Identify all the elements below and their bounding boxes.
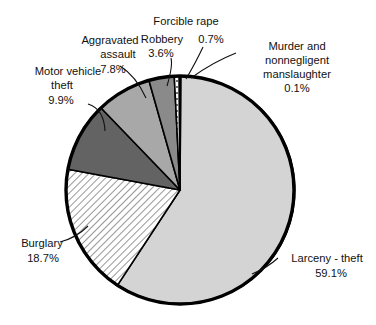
label-aggravated-assault-line2: assault (100, 48, 136, 60)
label-murder-line2: nonnegligent (265, 54, 330, 66)
pie-chart-figure: Forcible rape 0.7% Murder and nonneglige… (0, 0, 376, 325)
pie-chart-svg: Forcible rape 0.7% Murder and nonneglige… (0, 0, 376, 325)
label-murder-pct: 0.1% (284, 82, 310, 94)
label-larceny-theft-pct: 59.1% (315, 267, 347, 279)
label-murder-line1: Murder and (268, 40, 325, 52)
label-forcible-rape-name: Forcible rape (153, 15, 218, 27)
label-motor-vehicle-theft-line2: theft (51, 79, 74, 91)
label-forcible-rape-pct: 0.7% (198, 33, 224, 45)
label-motor-vehicle-theft-line1: Motor vehicle (35, 65, 102, 77)
label-aggravated-assault-pct: 7.8% (100, 63, 126, 75)
label-robbery-pct: 3.6% (148, 47, 174, 59)
label-larceny-theft-name: Larceny - theft (291, 252, 363, 264)
label-robbery-name: Robbery (141, 33, 184, 45)
pie-slice-murder-nonnegligent-manslaughter[interactable] (179, 76, 180, 190)
label-burglary-name: Burglary (21, 237, 63, 249)
label-aggravated-assault-line1: Aggravated (81, 34, 138, 46)
label-murder-line3: manslaughter (263, 68, 331, 80)
label-motor-vehicle-theft-pct: 9.9% (48, 94, 74, 106)
label-burglary-pct: 18.7% (27, 252, 59, 264)
